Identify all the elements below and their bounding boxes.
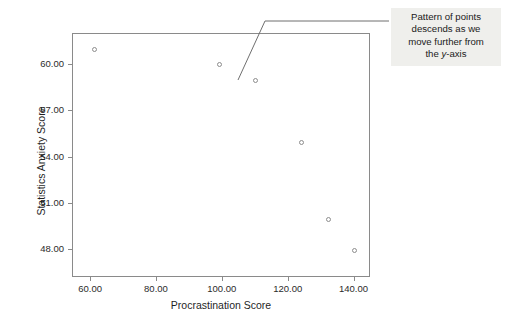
x-tick-label: 80.00 bbox=[121, 283, 191, 294]
x-tick-label: 60.00 bbox=[55, 283, 125, 294]
scatter-plot-figure: 48.0051.0054.0057.0060.00 60.0080.00100.… bbox=[0, 0, 507, 324]
y-tick-mark bbox=[68, 203, 72, 204]
data-point bbox=[217, 62, 222, 67]
data-point bbox=[326, 217, 331, 222]
y-tick-mark bbox=[68, 110, 72, 111]
data-point bbox=[92, 47, 97, 52]
y-axis-title: Statistics Anxiety Score bbox=[35, 39, 47, 283]
annotation-line-2: descends as we bbox=[393, 23, 499, 35]
plot-area-frame bbox=[72, 33, 370, 277]
y-tick-mark bbox=[68, 249, 72, 250]
annotation-line-3: move further from bbox=[393, 36, 499, 48]
x-tick-mark bbox=[354, 277, 355, 281]
x-tick-mark bbox=[90, 277, 91, 281]
data-point bbox=[299, 140, 304, 145]
x-tick-label: 120.00 bbox=[253, 283, 323, 294]
annotation-line-4-suffix: -axis bbox=[446, 48, 466, 59]
data-point bbox=[352, 248, 357, 253]
data-points-layer bbox=[73, 34, 369, 276]
x-tick-mark bbox=[222, 277, 223, 281]
annotation-line-4: the y-axis bbox=[393, 48, 499, 60]
data-point bbox=[253, 78, 258, 83]
annotation-line-4-prefix: the bbox=[425, 48, 441, 59]
y-tick-mark bbox=[68, 157, 72, 158]
x-axis-title: Procrastination Score bbox=[72, 299, 370, 311]
x-tick-label: 100.00 bbox=[187, 283, 257, 294]
annotation-line-1: Pattern of points bbox=[393, 11, 499, 23]
annotation-callout: Pattern of points descends as we move fu… bbox=[391, 8, 501, 66]
y-tick-mark bbox=[68, 64, 72, 65]
x-tick-label: 140.00 bbox=[319, 283, 389, 294]
x-tick-mark bbox=[288, 277, 289, 281]
x-tick-mark bbox=[156, 277, 157, 281]
